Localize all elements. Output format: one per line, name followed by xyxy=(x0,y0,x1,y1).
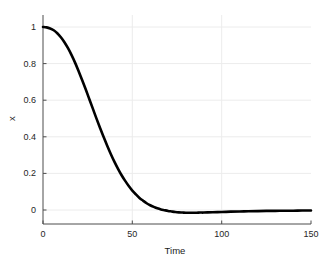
xtick-label-0: 0 xyxy=(23,229,63,239)
y-axis-title: x xyxy=(6,102,17,136)
x-axis-title: Time xyxy=(137,245,213,256)
figure-container: 1 0.8 0.6 0.4 0.2 0 0 50 100 150 x Time xyxy=(0,0,330,265)
ytick-label-0: 0 xyxy=(6,205,36,215)
ytick-label-0.8: 0.8 xyxy=(6,59,36,69)
ytick-label-0.2: 0.2 xyxy=(6,168,36,178)
ytick-label-1: 1 xyxy=(6,22,36,32)
axis-ticks xyxy=(43,27,311,224)
xtick-label-150: 150 xyxy=(291,229,330,239)
xtick-label-100: 100 xyxy=(202,229,242,239)
plot-canvas xyxy=(0,0,330,265)
grid-lines xyxy=(43,15,311,224)
xtick-label-50: 50 xyxy=(112,229,152,239)
axis-lines xyxy=(43,15,311,224)
data-series-x xyxy=(43,27,311,213)
